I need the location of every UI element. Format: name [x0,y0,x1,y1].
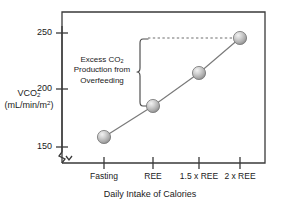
x-tick-label-fasting: Fasting [76,171,132,181]
y-axis-title-line2: (mL/min/m2) [0,99,58,111]
excess-co2-brace-icon [137,39,148,106]
y-tick-label-150: 150 [28,141,52,152]
y-tick-label-250: 250 [28,27,52,38]
x-tick-label-2-ree: 2 x REE [214,171,266,181]
y-axis-units-main: (mL/min/m [5,100,48,110]
data-line [104,38,240,137]
x-axis-title: Daily Intake of Calories [70,189,230,200]
y-axis-title-line1: VCO2 [0,88,58,99]
chart-figure: 250 200 150 VCO2 (mL/min/m2) Excess CO2 … [0,0,281,209]
annotation-line-3: Overfeeding [66,76,138,86]
annotation-line-1-subscript: 2 [120,58,123,64]
y-axis-title-main: VCO [18,88,38,98]
x-axis-break [66,156,72,160]
annotation-line-1-main: Excess CO [80,55,120,64]
y-axis-title-subscript: 2 [37,91,40,98]
y-axis-units-close: ) [50,100,53,110]
annotation-line-2: Production from [66,65,138,75]
y-axis-title: VCO2 (mL/min/m2) [0,88,58,111]
excess-co2-annotation: Excess CO2 Production from Overfeeding [66,55,138,86]
y-axis-line [59,26,65,163]
annotation-line-1: Excess CO2 [66,55,138,65]
